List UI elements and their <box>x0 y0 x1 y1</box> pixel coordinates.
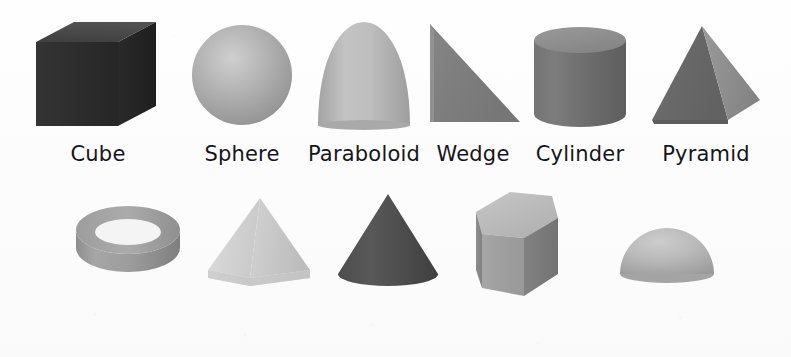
sphere-icon <box>176 14 308 132</box>
shape-cell-hexagon: Hexagon <box>452 186 584 336</box>
cube-icon <box>28 14 168 132</box>
shape-cell-cube: Cube <box>28 14 168 164</box>
shape-cell-half-sphere: Half sphere <box>592 186 742 336</box>
cylinder-icon <box>518 14 642 132</box>
shape-label-pyramid: Pyramid <box>640 142 772 166</box>
shape-cell-triangle: Triangle <box>192 186 326 336</box>
triangular-prism-icon <box>192 186 326 296</box>
shape-cell-sphere: Sphere <box>176 14 308 164</box>
shape-cell-pyramid: Pyramid <box>640 14 772 164</box>
shape-cell-cone: Cone <box>326 186 450 336</box>
shape-label-sphere: Sphere <box>176 142 308 166</box>
cone-icon <box>326 186 450 296</box>
solids-figure-page: Cube Sphere <box>0 0 791 357</box>
shape-label-cylinder: Cylinder <box>518 142 642 166</box>
ring-icon <box>62 186 192 296</box>
shape-label-cube: Cube <box>28 142 168 166</box>
shape-cell-cylinder: Cylinder <box>518 14 642 164</box>
pyramid-icon <box>640 14 772 132</box>
shape-cell-ring: Ring <box>62 186 192 336</box>
hexagonal-prism-icon <box>452 186 584 312</box>
hemisphere-icon <box>592 186 742 296</box>
